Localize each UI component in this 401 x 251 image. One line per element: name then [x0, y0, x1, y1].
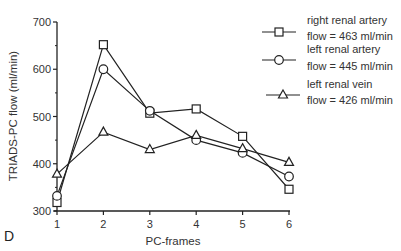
circle-marker-icon — [275, 56, 284, 65]
legend-label-line1: left renal vein — [307, 78, 372, 90]
x-tick-label: 6 — [286, 218, 292, 230]
triangle-marker-icon — [192, 130, 201, 138]
legend-label-line1: left renal artery — [307, 43, 381, 55]
legend: right renal artery flow = 463 ml/min lef… — [262, 14, 393, 106]
square-marker-icon — [99, 41, 107, 49]
y-axis: 300400500600700 — [33, 16, 57, 217]
x-axis: 123456 — [54, 211, 292, 230]
square-marker-icon — [192, 105, 200, 113]
line-chart: TRIADS-PC flow (ml/min) 300400500600700 … — [0, 0, 401, 251]
panel-label: D — [4, 228, 14, 244]
y-tick-label: 400 — [33, 158, 51, 170]
x-tick-label: 3 — [147, 218, 153, 230]
triangle-marker-icon — [53, 169, 62, 177]
square-marker-icon — [275, 28, 283, 36]
series-left-renal-vein — [53, 127, 294, 177]
triangle-marker-icon — [99, 127, 108, 135]
x-tick-label: 4 — [193, 218, 199, 230]
circle-marker-icon — [53, 192, 62, 201]
circle-marker-icon — [285, 172, 294, 181]
series-left-renal-artery — [53, 65, 294, 200]
circle-marker-icon — [146, 107, 155, 116]
plot-area — [53, 41, 294, 207]
y-axis-label: TRIADS-PC flow (ml/min) — [7, 51, 19, 182]
y-tick-label: 600 — [33, 63, 51, 75]
circle-marker-icon — [99, 65, 108, 74]
y-tick-label: 700 — [33, 16, 51, 28]
legend-label-line2: flow = 463 ml/min — [307, 30, 393, 42]
x-tick-label: 5 — [240, 218, 246, 230]
legend-item-left-renal-artery: left renal artery flow = 445 ml/min — [262, 43, 393, 72]
square-marker-icon — [239, 132, 247, 140]
x-tick-label: 2 — [100, 218, 106, 230]
legend-label-line1: right renal artery — [307, 14, 388, 26]
legend-item-left-renal-vein: left renal vein flow = 426 ml/min — [266, 78, 393, 106]
square-marker-icon — [285, 185, 293, 193]
legend-item-right-renal-artery: right renal artery flow = 463 ml/min — [262, 14, 393, 42]
series-right-renal-artery — [53, 41, 293, 207]
x-axis-label: PC-frames — [146, 235, 201, 247]
y-tick-label: 300 — [33, 205, 51, 217]
triangle-marker-icon — [279, 90, 288, 98]
legend-label-line2: flow = 426 ml/min — [307, 94, 393, 106]
x-tick-label: 1 — [54, 218, 60, 230]
y-tick-label: 500 — [33, 111, 51, 123]
legend-label-line2: flow = 445 ml/min — [307, 60, 393, 72]
